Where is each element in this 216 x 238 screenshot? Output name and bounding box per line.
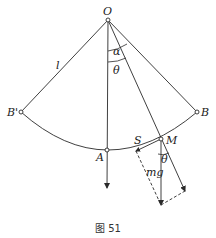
label-Bprime: B' <box>6 106 18 119</box>
label-O: O <box>103 5 112 18</box>
label-alpha: α <box>113 45 121 58</box>
point-O <box>106 18 110 22</box>
theta-arc-top <box>108 58 126 62</box>
label-M: M <box>165 134 178 147</box>
label-theta-bottom: θ <box>161 153 168 166</box>
point-B <box>195 110 199 114</box>
label-length: l <box>56 59 60 72</box>
string-OB <box>108 20 197 112</box>
dashed-component-bottom <box>161 191 185 205</box>
pendulum-diagram: O B' B A M S l α θ θ mg 图 51 <box>0 0 216 238</box>
point-M <box>159 137 163 141</box>
label-mg: mg <box>146 166 163 179</box>
label-S: S <box>134 134 142 147</box>
label-theta-top: θ <box>113 64 120 77</box>
figure-caption: 图 51 <box>95 223 121 234</box>
string-OBprime <box>21 20 108 112</box>
label-A: A <box>95 151 104 164</box>
point-A <box>105 148 109 152</box>
vertical-axis <box>107 20 108 188</box>
point-Bprime <box>19 110 23 114</box>
label-B: B <box>200 106 209 119</box>
